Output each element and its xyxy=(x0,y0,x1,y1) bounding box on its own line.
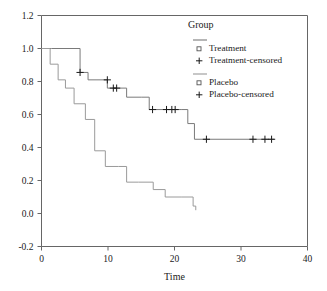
x-tick-label: 0 xyxy=(39,254,44,264)
x-tick-label: 30 xyxy=(236,254,246,264)
y-tick-label: 1.0 xyxy=(22,44,34,54)
chart-background xyxy=(0,0,327,291)
legend-label: Placebo xyxy=(209,77,238,87)
x-axis-title: Time xyxy=(164,271,185,282)
legend-label: Placebo-censored xyxy=(209,89,274,99)
y-tick-label: 0.6 xyxy=(22,110,34,120)
x-tick-label: 10 xyxy=(103,254,113,264)
legend-label: Treatment xyxy=(209,43,247,53)
legend-label: Treatment-censored xyxy=(209,55,283,65)
x-tick-label: 40 xyxy=(303,254,313,264)
kaplan-meier-chart: 010203040 -0.20.00.20.40.60.81.01.2 Time… xyxy=(0,0,327,291)
y-tick-label: 0.4 xyxy=(22,143,34,153)
y-tick-label: 0.0 xyxy=(22,209,34,219)
x-tick-label: 20 xyxy=(170,254,180,264)
y-tick-label: 0.2 xyxy=(22,176,34,186)
y-tick-label: 1.2 xyxy=(22,11,34,21)
legend-title: Group xyxy=(188,19,214,30)
y-tick-label: 0.8 xyxy=(22,77,34,87)
chart-canvas: 010203040 -0.20.00.20.40.60.81.01.2 Time… xyxy=(0,0,327,291)
y-tick-label: -0.2 xyxy=(18,242,33,252)
